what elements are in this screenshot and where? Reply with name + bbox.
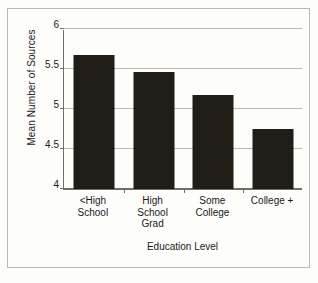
x-tick-label-line: College: [183, 207, 243, 219]
x-tick-label-line: Some: [183, 195, 243, 207]
x-tick-label: HighSchoolGrad: [123, 195, 183, 230]
x-tick-mark: [243, 189, 244, 193]
x-tick-label-line: High: [123, 195, 183, 207]
bar[interactable]: [253, 129, 294, 189]
y-tick-mark: [60, 28, 64, 29]
bar-group: [64, 30, 124, 189]
gridline: [64, 28, 302, 29]
x-tick-label-line: School: [63, 207, 123, 219]
x-tick-label-line: Grad: [123, 218, 183, 230]
figure-border: Mean Number of Sources 44.555.56 <HighSc…: [7, 8, 310, 268]
plot-area: 44.555.56: [63, 30, 302, 190]
bar-group: [124, 30, 184, 189]
bar-group: [184, 30, 244, 189]
x-tick-mark: [184, 189, 185, 193]
y-tick-label: 4: [53, 179, 59, 190]
bar[interactable]: [73, 55, 114, 189]
bar[interactable]: [133, 72, 174, 189]
bar-group: [243, 30, 303, 189]
x-tick-label-line: College +: [242, 195, 302, 207]
x-axis-title: Education Level: [63, 241, 302, 252]
x-tick-label: College +: [242, 195, 302, 207]
x-tick-label: <HighSchool: [63, 195, 123, 218]
bars: [64, 30, 302, 189]
x-tick-label-line: School: [123, 207, 183, 219]
y-tick-label: 4.5: [45, 139, 59, 150]
bar[interactable]: [193, 95, 234, 189]
figure-root: Mean Number of Sources 44.555.56 <HighSc…: [0, 0, 318, 283]
y-tick-label: 6: [53, 19, 59, 30]
y-tick-label: 5.5: [45, 59, 59, 70]
y-tick-label: 5: [53, 99, 59, 110]
y-axis-title: Mean Number of Sources: [26, 13, 37, 163]
x-tick-label-line: <High: [63, 195, 123, 207]
x-tick-label: SomeCollege: [183, 195, 243, 218]
x-tick-mark: [124, 189, 125, 193]
